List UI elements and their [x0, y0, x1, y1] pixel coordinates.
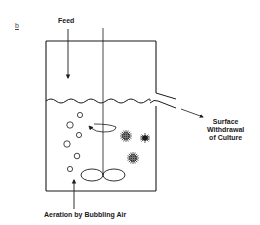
rotation-arrow — [89, 124, 116, 132]
feed-label: Feed — [58, 17, 74, 25]
panel-label: b — [15, 22, 19, 30]
withdrawal-label-line2: Withdrawal — [207, 126, 244, 134]
cell-large-2 — [127, 152, 139, 164]
air-bubbles — [64, 112, 83, 171]
aeration-label: Aeration by Bubbling Air — [44, 211, 126, 219]
diagram-canvas — [0, 0, 260, 225]
bioreactor-diagram: b Feed Surface Withdrawal of Culture Aer… — [0, 0, 260, 225]
cell-small-dark — [140, 133, 150, 143]
withdrawal-label: Surface Withdrawal of Culture — [207, 118, 244, 142]
surface-outlet — [150, 93, 176, 108]
liquid-surface — [46, 99, 150, 103]
withdrawal-arrow — [181, 109, 203, 117]
withdrawal-label-line1: Surface — [207, 118, 244, 126]
vessel — [46, 41, 156, 191]
microorganisms — [120, 130, 150, 164]
withdrawal-label-line3: of Culture — [207, 134, 244, 142]
cell-large-1 — [120, 130, 132, 142]
